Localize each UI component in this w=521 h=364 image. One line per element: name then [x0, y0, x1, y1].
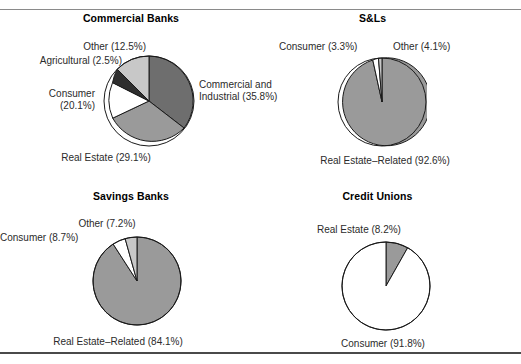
panel-savings-banks: Savings Banks Other (7.2%) Consumer (8.7…	[0, 190, 262, 355]
panel-title-commercial-banks: Commercial Banks	[0, 12, 262, 24]
label-credit-unions-real-estate: Real Estate (8.2%)	[317, 224, 459, 236]
label-commercial-banks-consumer-line2: (20.1%)	[0, 100, 95, 112]
label-commercial-banks-consumer-line1: Consumer	[0, 88, 95, 100]
label-snls-real-estate-related: Real Estate–Related (92.6%)	[295, 155, 475, 167]
panel-title-snls: S&Ls	[243, 12, 502, 24]
pie-svg-snls	[337, 57, 427, 147]
label-commercial-banks-other: Other (12.5%)	[0, 41, 146, 53]
panel-snls: S&Ls Consumer (3.3%) Other (4.1%) Real E…	[262, 12, 521, 182]
pie-snls	[337, 57, 427, 147]
pie-svg-credit-unions	[341, 241, 431, 331]
pie-savings-banks	[92, 236, 182, 326]
label-snls-other: Other (4.1%)	[393, 41, 488, 53]
label-snls-consumer: Consumer (3.3%)	[279, 41, 389, 53]
label-commercial-banks-real-estate: Real Estate (29.1%)	[36, 152, 176, 164]
label-savings-banks-consumer: Consumer (8.7%)	[0, 232, 108, 244]
panel-credit-unions: Credit Unions Real Estate (8.2%) Consume…	[262, 190, 521, 355]
label-commercial-banks-agricultural: Agricultural (2.5%)	[0, 55, 122, 67]
label-savings-banks-real-estate-related: Real Estate–Related (84.1%)	[23, 336, 213, 348]
top-divider-rule	[0, 9, 521, 10]
pie-chart-figure: Commercial Banks Other (12.5%) Agricultu…	[0, 0, 521, 364]
label-credit-unions-consumer: Consumer (91.8%)	[298, 338, 468, 350]
pie-svg-savings-banks	[92, 236, 182, 326]
panel-commercial-banks: Commercial Banks Other (12.5%) Agricultu…	[0, 12, 262, 182]
pie-svg-commercial-banks	[103, 55, 195, 147]
panel-title-savings-banks: Savings Banks	[0, 190, 262, 202]
label-savings-banks-other: Other (7.2%)	[52, 218, 162, 230]
pie-commercial-banks	[103, 55, 195, 147]
pie-credit-unions	[341, 241, 431, 331]
panel-title-credit-unions: Credit Unions	[248, 190, 507, 202]
